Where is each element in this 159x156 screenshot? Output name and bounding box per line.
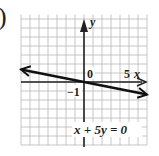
x-axis-label: x [133,67,140,81]
origin-label: 0 [87,67,93,81]
x-tick-label: 5 [124,67,130,81]
y-axis-arrow-icon [80,19,88,32]
y-axis-label: y [88,15,96,29]
graph: 0 −1 5 x y x + 5y = 0 [0,0,159,156]
equation-label: x + 5y = 0 [73,122,128,137]
y-tick-label: −1 [67,85,80,99]
